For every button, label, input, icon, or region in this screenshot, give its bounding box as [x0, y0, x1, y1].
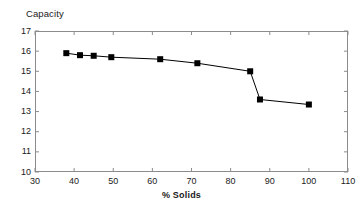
y-axis-tick-label: 17 — [5, 27, 31, 36]
plot-canvas — [35, 31, 348, 172]
y-axis-tick-label: 16 — [5, 47, 31, 56]
y-axis-tick-label: 12 — [5, 127, 31, 136]
data-point-marker — [63, 50, 69, 56]
y-axis-tick-label: 14 — [5, 87, 31, 96]
x-axis-tick-label: 60 — [132, 177, 172, 186]
data-series-markers — [63, 50, 312, 107]
y-axis-tick-label: 11 — [5, 147, 31, 156]
y-axis-tick-label: 13 — [5, 107, 31, 116]
data-series-line — [66, 53, 309, 104]
data-point-marker — [157, 56, 163, 62]
x-axis-tick-label: 100 — [289, 177, 329, 186]
data-point-marker — [91, 53, 97, 59]
data-point-marker — [194, 60, 200, 66]
chart-title: Capacity — [26, 8, 64, 19]
x-axis-tick-label: 50 — [93, 177, 133, 186]
x-axis-tick-label: 70 — [172, 177, 212, 186]
data-point-marker — [257, 96, 263, 102]
data-point-marker — [77, 52, 83, 58]
x-axis-tick-label: 110 — [328, 177, 363, 186]
y-axis-tick-marks — [35, 31, 348, 172]
x-axis-tick-marks — [35, 31, 348, 172]
capacity-vs-solids-chart: Capacity 1716151413121110 30405060708090… — [0, 0, 363, 208]
data-point-marker — [306, 102, 312, 108]
data-point-marker — [108, 54, 114, 60]
x-axis-tick-label: 30 — [15, 177, 55, 186]
y-axis-tick-label: 10 — [5, 168, 31, 177]
x-axis-tick-label: 40 — [54, 177, 94, 186]
y-axis-tick-label: 15 — [5, 67, 31, 76]
x-axis-title: % Solids — [0, 190, 363, 200]
x-axis-tick-label: 90 — [250, 177, 290, 186]
x-axis-tick-label: 80 — [211, 177, 251, 186]
data-point-marker — [247, 68, 253, 74]
